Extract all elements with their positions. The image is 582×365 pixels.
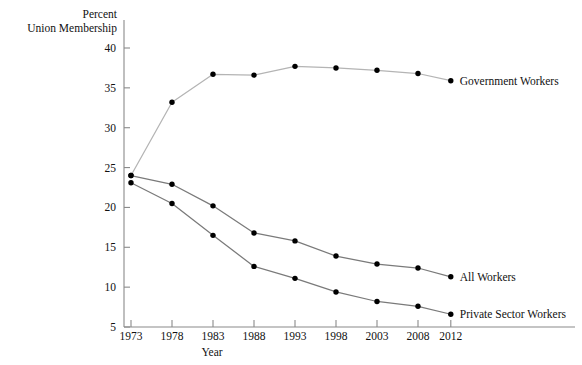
data-point-marker [448,78,453,83]
x-axis-tick-label: 2012 [439,330,462,342]
data-point-marker [251,230,256,235]
series-label: All Workers [460,271,517,283]
data-point-marker [448,312,453,317]
data-point-marker [169,182,174,187]
x-axis-tick-label: 1988 [243,330,266,342]
series-layer [128,64,453,317]
x-axis: 197319781983198819931998200320082012 [120,320,576,342]
y-axis-tick-label: 10 [105,281,117,293]
series-label: Private Sector Workers [460,308,567,320]
data-point-marker [210,72,215,77]
data-point-marker [210,203,215,208]
series-line [131,176,451,277]
y-axis-tick-label: 20 [105,201,117,213]
y-axis-tick-label: 30 [105,122,117,134]
data-point-marker [374,68,379,73]
data-point-marker [292,276,297,281]
series-label: Government Workers [460,75,559,87]
x-axis-tick-label: 1998 [325,330,348,342]
y-axis-title-line2: Union Membership [27,22,117,35]
series-line [131,183,451,315]
data-point-marker [251,72,256,77]
data-point-marker [210,233,215,238]
x-axis-tick-label: 1983 [202,330,225,342]
y-axis-title-line1: Percent [83,8,118,20]
x-axis-title: Year [201,346,222,358]
y-axis-tick-label: 5 [110,321,116,333]
data-point-marker [128,180,133,185]
data-point-marker [415,71,420,76]
data-point-marker [169,100,174,105]
data-point-marker [292,64,297,69]
data-point-marker [251,264,256,269]
data-point-marker [333,289,338,294]
x-axis-tick-label: 1978 [161,330,184,342]
x-axis-tick-label: 2003 [366,330,389,342]
data-point-marker [415,304,420,309]
x-axis-tick-label: 1993 [284,330,307,342]
data-point-marker [448,274,453,279]
x-axis-tick-label: 1973 [120,330,143,342]
y-axis-tick-label: 25 [105,162,117,174]
data-point-marker [333,253,338,258]
y-axis-tick-label: 35 [105,82,117,94]
data-point-marker [292,238,297,243]
bottom-bleed-text [0,358,582,365]
data-point-marker [415,265,420,270]
data-point-marker [169,201,174,206]
data-point-marker [374,261,379,266]
y-axis-tick-label: 15 [105,241,117,253]
data-point-marker [333,65,338,70]
data-point-marker [128,173,133,178]
series-line [131,66,451,175]
data-point-marker [374,299,379,304]
x-axis-tick-label: 2008 [407,330,430,342]
union-membership-line-chart: PercentUnion MembershipYear 510152025303… [0,0,582,365]
axis-titles: PercentUnion MembershipYear [27,8,223,358]
y-axis: 510152025303540 [105,20,131,333]
y-axis-tick-label: 40 [105,42,117,54]
chart-container: PercentUnion MembershipYear 510152025303… [0,0,582,365]
series-labels: Government WorkersAll WorkersPrivate Sec… [460,75,567,321]
